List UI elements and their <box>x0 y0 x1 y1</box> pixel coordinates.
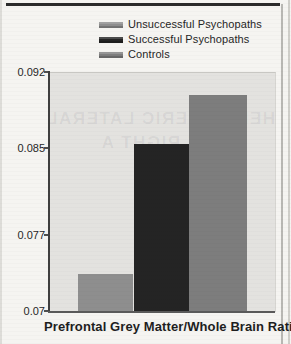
figure: Unsuccessful Psychopaths Successful Psyc… <box>0 0 291 344</box>
legend: Unsuccessful Psychopaths Successful Psyc… <box>99 17 262 62</box>
left-page-edge-line <box>0 0 2 344</box>
x-axis-line <box>48 311 275 313</box>
legend-label: Successful Psychopaths <box>128 32 249 47</box>
x-axis-title: Prefrontal Grey Matter/Whole Brain Ratio <box>44 319 281 334</box>
legend-item-successful: Successful Psychopaths <box>99 32 262 47</box>
legend-swatch-successful <box>99 37 123 43</box>
legend-item-unsuccessful: Unsuccessful Psychopaths <box>99 17 262 32</box>
y-tick-label: 0.07 <box>0 304 45 318</box>
y-tick-label: 0.077 <box>0 228 45 242</box>
bar-successful-psychopaths <box>134 144 189 312</box>
plot-area: HEMISPHERIC LATERALI THE RIGHT A <box>50 72 276 312</box>
legend-swatch-controls <box>99 52 123 58</box>
top-border-rule <box>6 3 280 6</box>
legend-label: Controls <box>128 47 170 62</box>
legend-swatch-unsuccessful <box>99 22 123 28</box>
y-tick-label: 0.092 <box>0 65 45 79</box>
y-tick-label: 0.085 <box>0 141 45 155</box>
legend-item-controls: Controls <box>99 47 262 62</box>
right-page-edge-line <box>281 4 283 344</box>
right-page-edge-line-outer <box>288 0 290 344</box>
y-axis-line <box>48 71 50 313</box>
legend-label: Unsuccessful Psychopaths <box>128 17 262 32</box>
bar-unsuccessful-psychopaths <box>78 274 133 312</box>
bar-controls <box>189 95 247 312</box>
